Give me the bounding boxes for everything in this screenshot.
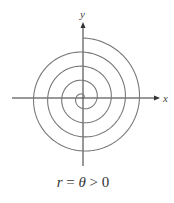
y-axis-label: y: [79, 8, 85, 20]
x-axis-arrow-icon: [154, 96, 160, 101]
y-axis-arrow-icon: [81, 22, 86, 28]
equation-caption: r = θ > 0: [0, 174, 166, 191]
caption-condition: > 0: [86, 174, 109, 190]
caption-equals: =: [63, 174, 79, 190]
archimedean-spiral-curve: [34, 38, 140, 151]
x-axis-label: x: [162, 92, 168, 104]
caption-theta: θ: [78, 174, 85, 190]
spiral-diagram: x y: [0, 0, 174, 203]
